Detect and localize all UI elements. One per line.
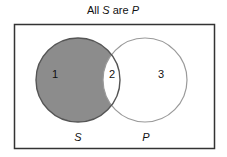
circle-label-s: S [74, 131, 82, 143]
title-middle: are [110, 4, 132, 16]
region-label-1: 1 [52, 68, 58, 80]
diagram-title: All S are P [87, 4, 140, 16]
region-label-3: 3 [158, 68, 164, 80]
title-term-p: P [132, 4, 140, 16]
circle-label-p: P [142, 131, 150, 143]
region-label-2: 2 [109, 68, 115, 80]
title-prefix: All [87, 4, 102, 16]
venn-diagram: All S are P 1 2 3 S P [0, 0, 227, 157]
